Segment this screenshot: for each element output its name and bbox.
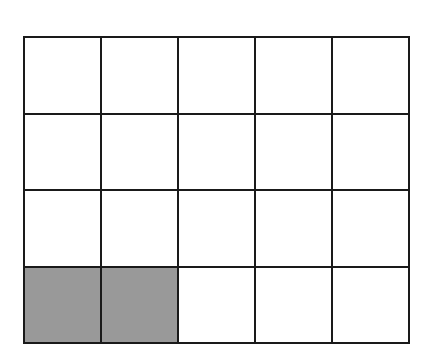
grid-cell — [178, 114, 255, 191]
fraction-grid — [23, 36, 410, 344]
grid-cell — [255, 190, 332, 267]
grid-cell-shaded — [101, 267, 178, 344]
grid-cell — [178, 37, 255, 114]
grid-cell — [332, 190, 409, 267]
grid-cell — [255, 267, 332, 344]
grid-cell — [255, 114, 332, 191]
grid-cell-shaded — [24, 267, 101, 344]
grid-cell — [24, 190, 101, 267]
grid-cell — [332, 114, 409, 191]
grid-cell — [332, 267, 409, 344]
grid-cell — [332, 37, 409, 114]
grid-cell — [178, 267, 255, 344]
grid-cell — [178, 190, 255, 267]
grid-cell — [101, 37, 178, 114]
grid-cell — [24, 37, 101, 114]
grid-cell — [101, 190, 178, 267]
grid-cell — [24, 114, 101, 191]
grid-cell — [101, 114, 178, 191]
grid-cell — [255, 37, 332, 114]
